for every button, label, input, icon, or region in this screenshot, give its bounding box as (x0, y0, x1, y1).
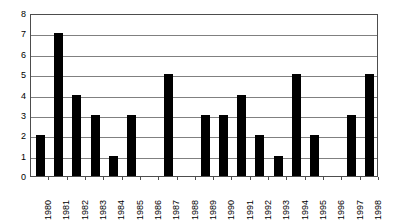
bar (310, 135, 319, 176)
x-axis-tick-label: 1981 (61, 180, 71, 220)
x-axis-tick-label: 1992 (263, 180, 273, 220)
x-axis-tick-label: 1989 (208, 180, 218, 220)
y-axis-tick-label: 3 (4, 111, 26, 120)
plot-area (30, 14, 378, 177)
x-axis-tick-label: 1982 (80, 180, 90, 220)
bar (127, 115, 136, 176)
x-axis-tick-label: 1980 (43, 180, 53, 220)
bar (365, 74, 374, 176)
x-axis-tick-label: 1990 (226, 180, 236, 220)
bar (237, 95, 246, 177)
x-axis-tick-label: 1995 (318, 180, 328, 220)
bar (36, 135, 45, 176)
bars-group (31, 15, 377, 176)
bar-chart: 012345678 198019811982198319841985198619… (0, 0, 399, 224)
y-axis-tick-label: 6 (4, 50, 26, 59)
x-axis-tick-label: 1983 (98, 180, 108, 220)
bar (219, 115, 228, 176)
x-axis-tick-label: 1994 (300, 180, 310, 220)
bar (164, 74, 173, 176)
bar (292, 74, 301, 176)
x-axis-tick-label: 1987 (171, 180, 181, 220)
y-axis-tick-label: 8 (4, 10, 26, 19)
x-axis-tick-label: 1993 (281, 180, 291, 220)
x-axis-tick-label: 1984 (116, 180, 126, 220)
y-axis-tick-label: 4 (4, 91, 26, 100)
bar (347, 115, 356, 176)
bar (274, 156, 283, 176)
bar (201, 115, 210, 176)
x-axis-tick-label: 1986 (153, 180, 163, 220)
y-axis-tick-label: 1 (4, 152, 26, 161)
bar (91, 115, 100, 176)
x-axis-tick-label: 1991 (245, 180, 255, 220)
x-axis-tick-label: 1988 (190, 180, 200, 220)
bar (255, 135, 264, 176)
x-axis-tick-label: 1997 (355, 180, 365, 220)
y-axis: 012345678 (0, 0, 26, 224)
y-axis-tick-label: 0 (4, 173, 26, 182)
bar (72, 95, 81, 177)
x-axis-tick-label: 1985 (135, 180, 145, 220)
y-axis-tick-label: 2 (4, 132, 26, 141)
x-axis-tick-label: 1996 (336, 180, 346, 220)
x-axis-tick-label: 1998 (373, 180, 383, 220)
bar (54, 33, 63, 176)
y-axis-tick-label: 5 (4, 71, 26, 80)
x-axis: 1980198119821983198419851986198719881989… (30, 180, 378, 224)
bar (109, 156, 118, 176)
y-axis-tick-label: 7 (4, 30, 26, 39)
